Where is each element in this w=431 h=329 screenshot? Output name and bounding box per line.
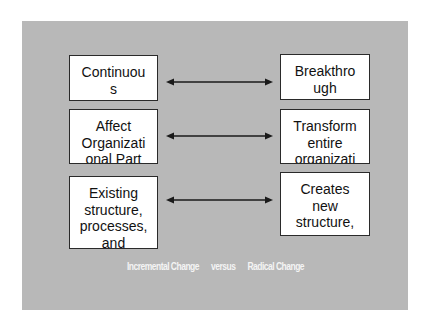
box-line: Creates [281,181,369,198]
slide-caption: Incremental Change versus Radical Change [32,261,398,272]
radical-box-transform: Transform entire organizati [280,109,370,164]
caption-radical: Radical Change [247,261,304,272]
box-line: organizati [281,151,369,164]
box-line: Organizati [70,135,157,152]
double-arrow-icon [166,195,273,205]
box-line: processes, [70,218,157,235]
incremental-box-affect-part: Affect Organizati onal Part [69,109,158,164]
radical-box-breakthrough: Breakthro ugh [280,54,370,100]
box-line: Breakthro [281,63,369,80]
box-line: ugh [281,80,369,97]
box-line: structure, [281,214,369,231]
box-line: Affect [70,118,157,135]
double-arrow-icon [166,77,273,87]
box-line: structure, [70,202,157,219]
double-arrow-icon [166,131,273,141]
incremental-box-continuous: Continuou s [69,55,158,101]
box-line: s [70,81,157,98]
box-line: onal Part [70,151,157,164]
caption-incremental: Incremental Change [127,261,199,272]
incremental-box-existing-structure: Existing structure, processes, and [69,176,158,249]
box-line: Continuou [70,64,157,81]
box-line: Transform [281,118,369,135]
box-line: Existing [70,185,157,202]
radical-box-creates-structure: Creates new structure, [280,172,370,236]
box-line: entire [281,135,369,152]
box-line: new [281,198,369,215]
caption-versus: versus [211,261,235,272]
box-line: and [70,235,157,250]
